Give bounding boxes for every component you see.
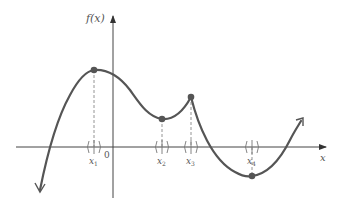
point-x4-min	[249, 173, 256, 180]
tick-label-x1: x1	[89, 156, 98, 167]
dashed-guides	[94, 70, 252, 176]
x-axis-label: x	[320, 152, 326, 163]
origin-label: 0	[104, 150, 110, 160]
point-x1-max	[91, 67, 98, 74]
y-axis-label: f(x)	[85, 12, 105, 25]
critical-point-markers	[91, 67, 256, 180]
point-x3-cusp	[188, 94, 195, 101]
tick-labels: x1 x2 x3 x4	[89, 156, 256, 167]
tick-label-x2: x2	[157, 156, 166, 167]
point-x2-min	[159, 116, 166, 123]
function-curve	[35, 70, 303, 192]
tick-label-x4: x4	[247, 156, 256, 167]
function-graph: f(x) x 0 x1 x2 x3 x4	[0, 0, 339, 206]
tick-label-x3: x3	[186, 156, 195, 167]
